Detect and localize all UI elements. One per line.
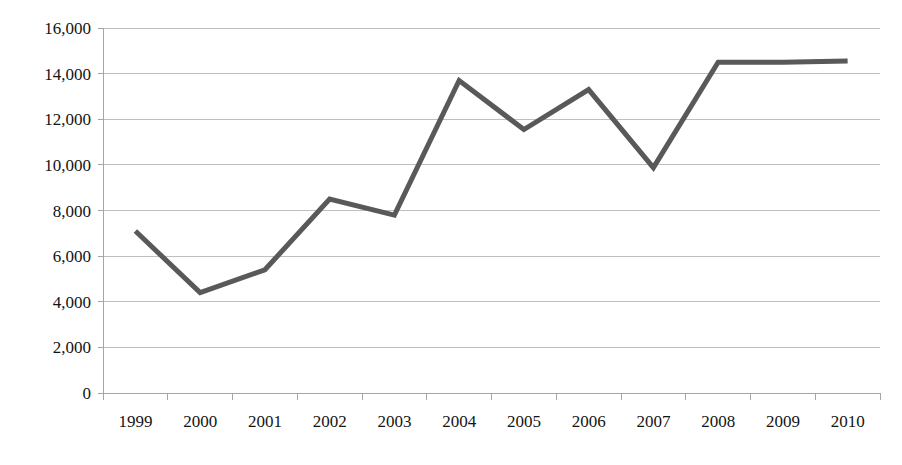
x-axis-tick-label: 1999: [118, 412, 152, 431]
y-axis-tick-label: 14,000: [44, 65, 91, 84]
x-axis-tick-label: 2000: [183, 412, 217, 431]
y-axis-tick-label: 0: [83, 384, 92, 403]
y-axis-tick-label: 6,000: [53, 247, 91, 266]
x-axis-tick-label: 2002: [313, 412, 347, 431]
y-axis-tick-label: 2,000: [53, 338, 91, 357]
x-axis-tick-label: 2003: [377, 412, 411, 431]
y-axis-tick-label: 4,000: [53, 293, 91, 312]
x-axis-tick-label: 2010: [831, 412, 865, 431]
y-axis-tick-label: 12,000: [44, 110, 91, 129]
line-chart: 02,0004,0006,0008,00010,00012,00014,0001…: [0, 0, 902, 465]
x-axis-tick-label: 2001: [248, 412, 282, 431]
x-axis-tick-label: 2005: [507, 412, 541, 431]
x-axis-tick-label: 2009: [766, 412, 800, 431]
y-axis-tick-label: 10,000: [44, 156, 91, 175]
x-axis-tick-label: 2004: [442, 412, 477, 431]
y-axis-tick-label: 16,000: [44, 19, 91, 38]
x-axis-tick-label: 2006: [572, 412, 606, 431]
x-axis-tick-label: 2008: [701, 412, 735, 431]
y-axis-tick-label: 8,000: [53, 202, 91, 221]
chart-canvas: 02,0004,0006,0008,00010,00012,00014,0001…: [0, 0, 902, 465]
x-axis-tick-label: 2007: [636, 412, 671, 431]
